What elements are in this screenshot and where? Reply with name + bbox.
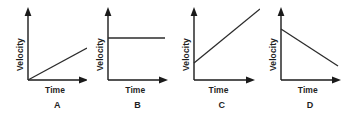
velocity-data-line <box>28 48 87 80</box>
panel-letter-a: A <box>54 101 61 110</box>
x-axis-label: Time <box>298 86 318 95</box>
x-axis-arrow-icon <box>246 77 255 84</box>
y-axis-arrow-icon <box>105 7 112 16</box>
graph-a-plot <box>0 0 87 116</box>
graph-panel-d: Velocity Time D <box>259 0 345 116</box>
y-axis-arrow-icon <box>25 7 32 16</box>
x-axis-label: Time <box>125 86 145 95</box>
velocity-data-line <box>281 29 338 66</box>
y-axis-label: Velocity <box>182 38 191 71</box>
graph-panel-c: Velocity Time C <box>173 0 259 116</box>
y-axis-label: Velocity <box>269 38 278 71</box>
y-axis-arrow-icon <box>190 7 197 16</box>
graph-panel-a: Velocity Time A <box>0 0 86 116</box>
y-axis-label: Velocity <box>96 38 105 71</box>
x-axis-arrow-icon <box>332 77 341 84</box>
panel-letter-d: D <box>307 101 314 110</box>
panel-row: Velocity Time A Velocity Time B <box>0 0 345 116</box>
y-axis-arrow-icon <box>277 7 284 16</box>
velocity-time-graph-figure: Velocity Time A Velocity Time B <box>0 0 345 116</box>
panel-letter-b: B <box>134 101 141 110</box>
panel-letter-c: C <box>219 101 226 110</box>
x-axis-label: Time <box>209 86 229 95</box>
graph-panel-b: Velocity Time B <box>86 0 172 116</box>
x-axis-label: Time <box>45 86 65 95</box>
x-axis-arrow-icon <box>159 77 168 84</box>
y-axis-label: Velocity <box>16 38 25 71</box>
velocity-data-line <box>194 9 260 63</box>
